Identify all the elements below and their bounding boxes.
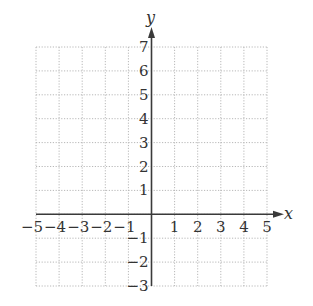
coordinate-plane: −5−4−3−2−112345 7654321−1−2−3 x y bbox=[0, 0, 313, 306]
x-tick-label: 5 bbox=[262, 218, 272, 236]
y-tick-label: 5 bbox=[139, 86, 149, 104]
x-tick-label: −5 bbox=[21, 218, 43, 236]
y-tick-label: 4 bbox=[139, 110, 149, 128]
y-axis-arrow-icon bbox=[148, 27, 155, 38]
y-tick-label: 2 bbox=[139, 158, 149, 176]
y-axis-label: y bbox=[145, 8, 156, 27]
y-tick-label: 6 bbox=[139, 62, 149, 80]
axes bbox=[36, 27, 284, 286]
x-axis-arrow-icon bbox=[273, 211, 284, 218]
y-tick-label: −1 bbox=[126, 229, 148, 247]
y-tick-label: −2 bbox=[126, 253, 148, 271]
x-tick-label: −4 bbox=[44, 218, 66, 236]
x-tick-label: −3 bbox=[67, 218, 89, 236]
x-tick-label: 2 bbox=[193, 218, 203, 236]
x-tick-label: −2 bbox=[90, 218, 112, 236]
x-tick-label: 1 bbox=[170, 218, 180, 236]
x-axis-label: x bbox=[284, 204, 293, 223]
x-tick-label: 3 bbox=[216, 218, 226, 236]
x-tick-label: 4 bbox=[239, 218, 249, 236]
y-tick-label: 3 bbox=[139, 134, 149, 152]
y-tick-label: 7 bbox=[139, 38, 149, 56]
y-tick-label: −3 bbox=[126, 277, 148, 295]
y-tick-label: 1 bbox=[139, 181, 149, 199]
